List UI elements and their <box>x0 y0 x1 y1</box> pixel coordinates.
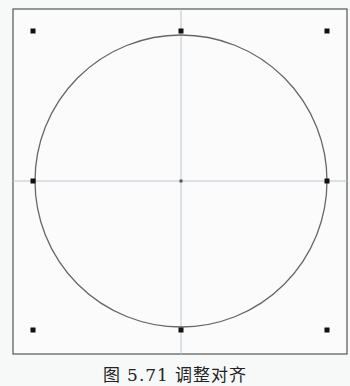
handle-middle-right[interactable] <box>325 179 330 184</box>
handle-center[interactable] <box>180 180 183 183</box>
handle-middle-left[interactable] <box>31 179 36 184</box>
figure-caption: 图 5.71 调整对齐 <box>0 361 350 386</box>
handle-bottom-center[interactable] <box>179 328 184 333</box>
handle-top-right[interactable] <box>325 29 330 34</box>
handle-bottom-right[interactable] <box>325 328 330 333</box>
handle-top-center[interactable] <box>179 29 184 34</box>
handle-top-left[interactable] <box>31 29 36 34</box>
handle-bottom-left[interactable] <box>31 328 36 333</box>
